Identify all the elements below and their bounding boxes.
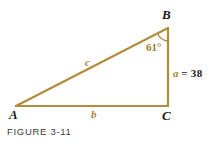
vertex-label-b: B [162, 8, 171, 21]
vertex-label-c: C [162, 109, 171, 122]
side-a-value: = 38 [181, 67, 202, 79]
figure-caption: FIGURE 3-11 [7, 126, 72, 137]
side-a-variable: a [173, 67, 179, 79]
angle-label-b: 61° [146, 42, 161, 53]
figure-3-11: A B C c b 61° a = 38 FIGURE 3-11 [0, 0, 219, 149]
side-label-c: c [85, 57, 90, 68]
vertex-label-a: A [9, 108, 18, 121]
angle-arc-b [158, 33, 169, 41]
side-label-b: b [91, 109, 97, 120]
side-c-line [16, 28, 168, 106]
side-a-measure: a = 38 [173, 68, 202, 79]
